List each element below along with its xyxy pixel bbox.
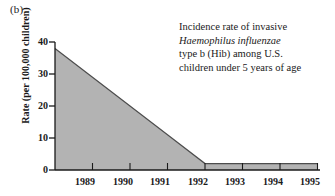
area-polygon xyxy=(55,48,318,170)
plot-area xyxy=(0,0,335,196)
figure-panel-b: (b) Incidence rate of invasive Haemophil… xyxy=(0,0,335,196)
area-series xyxy=(55,48,318,170)
y-tick-marks xyxy=(49,42,55,170)
